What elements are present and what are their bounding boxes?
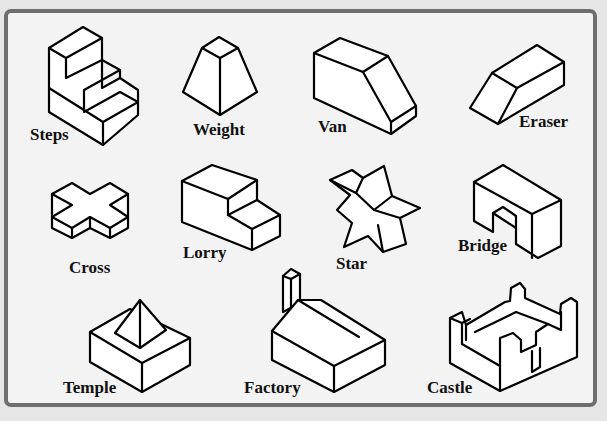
factory-shape — [272, 269, 385, 392]
label-bridge: Bridge — [458, 236, 507, 256]
label-van: Van — [318, 117, 347, 137]
label-cross: Cross — [69, 258, 110, 278]
castle-shape — [450, 283, 577, 391]
label-lorry: Lorry — [183, 243, 226, 263]
label-weight: Weight — [193, 120, 245, 140]
isometric-shapes-drawing — [0, 0, 607, 421]
label-eraser: Eraser — [519, 112, 568, 132]
label-temple: Temple — [63, 378, 116, 398]
label-star: Star — [336, 254, 367, 274]
lorry-shape — [182, 165, 280, 250]
label-steps: Steps — [30, 125, 69, 145]
star-shape — [330, 166, 420, 252]
cross-shape — [52, 183, 128, 238]
label-castle: Castle — [427, 378, 472, 398]
weight-shape — [183, 37, 257, 115]
label-factory: Factory — [244, 378, 301, 398]
